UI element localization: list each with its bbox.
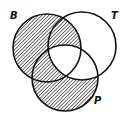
label-b: B [10,10,18,21]
label-p: P [94,95,102,106]
venn-diagram: B T P [0,0,124,120]
label-t: T [111,10,119,21]
